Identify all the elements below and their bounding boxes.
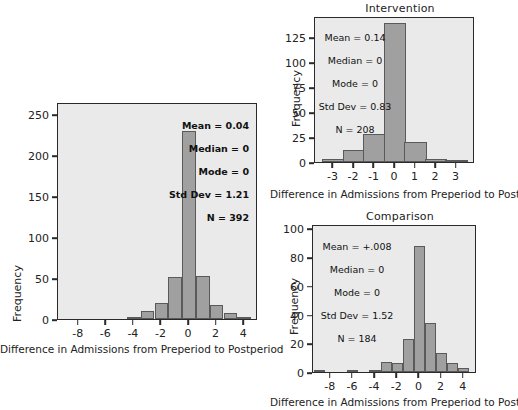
bar xyxy=(445,160,468,162)
bar xyxy=(322,159,345,162)
x-tick-mark xyxy=(242,320,244,325)
y-tick-mark xyxy=(309,87,314,89)
x-axis-label-intervention: Difference in Admissions from Preperiod … xyxy=(270,188,518,200)
x-tick-label: -6 xyxy=(346,380,357,393)
bar xyxy=(343,150,366,162)
x-tick-label: -3 xyxy=(327,170,338,183)
y-tick-mark xyxy=(52,319,57,321)
x-tick-mark xyxy=(373,373,375,378)
y-axis-label-comparison: Frequency xyxy=(288,267,301,347)
x-tick-mark xyxy=(434,163,436,168)
y-tick-mark xyxy=(309,137,314,139)
y-tick-mark xyxy=(52,155,57,157)
bar xyxy=(369,370,380,372)
stat-mode: Mode = 0 xyxy=(316,287,398,299)
y-tick-mark xyxy=(52,237,57,239)
x-tick-label: 2 xyxy=(432,170,439,183)
chart-panel-total: Frequency 050100150200250 -8-6-4-2024 Me… xyxy=(0,92,270,367)
bar xyxy=(196,276,210,319)
bar xyxy=(436,353,447,372)
x-tick-mark xyxy=(187,320,189,325)
chart-title-intervention: Intervention xyxy=(310,2,490,15)
x-tick-mark xyxy=(329,373,331,378)
x-tick-label: 4 xyxy=(459,380,466,393)
x-tick-mark xyxy=(462,373,464,378)
x-tick-label: -2 xyxy=(391,380,402,393)
y-tick-label: 150 xyxy=(23,191,49,204)
y-tick-mark xyxy=(307,372,312,374)
bar xyxy=(425,323,436,372)
y-tick-mark xyxy=(52,278,57,280)
x-tick-mark xyxy=(373,163,375,168)
bar xyxy=(381,362,392,372)
y-tick-label: 60 xyxy=(278,280,304,293)
bar xyxy=(403,339,414,372)
stat-mean: Mean = 0.04 xyxy=(137,120,249,132)
y-tick-label: 100 xyxy=(278,223,304,236)
bar xyxy=(224,313,238,319)
y-tick-mark xyxy=(307,286,312,288)
stat-std-dev: Std Dev = 1.52 xyxy=(316,310,398,322)
x-tick-mark xyxy=(414,163,416,168)
y-tick-mark xyxy=(307,229,312,231)
stat-mean: Mean = 0.14 xyxy=(316,32,394,44)
stat-median: Median = 0 xyxy=(316,264,398,276)
x-tick-label: 4 xyxy=(240,327,247,340)
y-tick-label: 50 xyxy=(280,107,306,120)
y-tick-label: 20 xyxy=(278,338,304,351)
x-tick-label: 1 xyxy=(411,170,418,183)
y-tick-label: 25 xyxy=(280,132,306,145)
x-tick-mark xyxy=(393,163,395,168)
chart-panel-intervention: Intervention Frequency 0255075100125 -3-… xyxy=(270,0,518,205)
y-tick-label: 0 xyxy=(23,314,49,327)
x-axis-label-total: Difference in Admissions from Preperiod … xyxy=(0,343,270,355)
x-tick-mark xyxy=(104,320,106,325)
x-tick-mark xyxy=(77,320,79,325)
bar xyxy=(404,142,427,162)
x-tick-mark xyxy=(332,163,334,168)
x-tick-mark xyxy=(132,320,134,325)
y-tick-mark xyxy=(309,112,314,114)
y-tick-label: 80 xyxy=(278,252,304,265)
y-tick-mark xyxy=(309,162,314,164)
x-tick-label: -4 xyxy=(369,380,380,393)
y-tick-mark xyxy=(309,62,314,64)
y-tick-label: 0 xyxy=(278,367,304,380)
y-tick-mark xyxy=(307,257,312,259)
x-tick-label: -1 xyxy=(368,170,379,183)
x-tick-label: -8 xyxy=(324,380,335,393)
bar xyxy=(314,370,325,372)
bar xyxy=(425,159,448,162)
stat-mode: Mode = 0 xyxy=(316,78,394,90)
y-tick-label: 40 xyxy=(278,309,304,322)
x-tick-label: -4 xyxy=(127,327,138,340)
bar xyxy=(392,363,403,372)
y-axis-label-total: Frequency xyxy=(11,254,24,334)
y-tick-label: 0 xyxy=(280,157,306,170)
bar xyxy=(168,277,182,319)
y-tick-label: 50 xyxy=(23,273,49,286)
x-tick-mark xyxy=(351,373,353,378)
stats-annotation-comparison: Mean = +.008 Median = 0 Mode = 0 Std Dev… xyxy=(316,229,398,357)
x-tick-label: 2 xyxy=(437,380,444,393)
bar xyxy=(127,317,141,319)
bar xyxy=(141,311,155,319)
bar xyxy=(155,303,169,319)
bar xyxy=(237,317,251,319)
y-tick-mark xyxy=(52,196,57,198)
chart-panel-comparison: Comparison Frequency 020406080100 -8-6-4… xyxy=(270,208,518,410)
bar xyxy=(210,305,224,319)
y-tick-label: 100 xyxy=(280,57,306,70)
x-tick-label: -6 xyxy=(100,327,111,340)
y-axis-label-intervention: Frequency xyxy=(290,59,303,139)
x-tick-mark xyxy=(418,373,420,378)
x-axis-label-comparison: Difference in Admissions from Preperiod … xyxy=(270,396,518,408)
stat-n: N = 392 xyxy=(137,212,249,224)
stat-std-dev: Std Dev = 0.83 xyxy=(316,101,394,113)
bar xyxy=(347,370,358,372)
bar xyxy=(458,368,469,372)
x-tick-label: -8 xyxy=(72,327,83,340)
stat-std-dev: Std Dev = 1.21 xyxy=(137,189,249,201)
x-tick-mark xyxy=(160,320,162,325)
y-tick-label: 250 xyxy=(23,109,49,122)
